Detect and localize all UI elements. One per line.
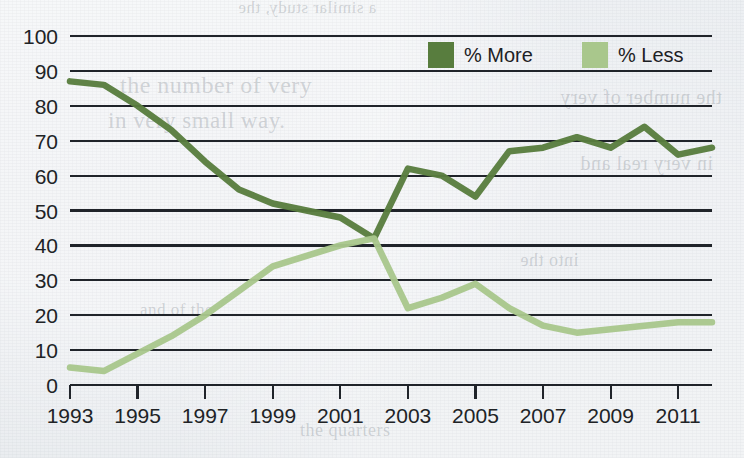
legend-swatch-less xyxy=(582,42,608,68)
y-axis-tick-label: 80 xyxy=(35,95,58,118)
x-axis-group xyxy=(70,385,712,399)
gridlines-group xyxy=(70,36,712,350)
y-axis-tick-label: 20 xyxy=(35,304,58,327)
y-axis-tick-label: 100 xyxy=(23,25,58,48)
x-axis-tick-label: 2001 xyxy=(317,404,364,427)
x-axis-tick-label: 2005 xyxy=(452,404,499,427)
legend-swatch-more xyxy=(428,42,454,68)
legend-label-less: % Less xyxy=(618,44,684,66)
x-axis-tick-label: 1999 xyxy=(249,404,296,427)
x-axis-tick-label: 2007 xyxy=(520,404,567,427)
y-axis-tick-label: 60 xyxy=(35,165,58,188)
x-axis-tick-label: 2003 xyxy=(385,404,432,427)
x-axis-tick-label: 1993 xyxy=(47,404,94,427)
y-axis-tick-label: 0 xyxy=(46,374,58,397)
x-axis-tick-label: 1995 xyxy=(114,404,161,427)
legend-label-more: % More xyxy=(464,44,533,66)
y-axis-labels-group: 0102030405060708090100 xyxy=(23,25,58,397)
chart-legend: % More% Less xyxy=(428,42,684,68)
x-axis-tick-label: 2009 xyxy=(587,404,634,427)
x-axis-tick-label: 2011 xyxy=(656,404,701,427)
y-axis-tick-label: 10 xyxy=(35,339,58,362)
series-lines-group xyxy=(70,81,712,371)
y-axis-tick-label: 30 xyxy=(35,269,58,292)
y-axis-tick-label: 90 xyxy=(35,60,58,83)
chart-svg: 0102030405060708090100 19931995199719992… xyxy=(0,0,744,458)
line-chart: 0102030405060708090100 19931995199719992… xyxy=(0,0,744,458)
y-axis-tick-label: 70 xyxy=(35,130,58,153)
x-axis-tick-label: 1997 xyxy=(182,404,229,427)
y-axis-tick-label: 40 xyxy=(35,234,58,257)
y-axis-tick-label: 50 xyxy=(35,200,58,223)
x-axis-labels-group: 1993199519971999200120032005200720092011 xyxy=(47,404,701,427)
